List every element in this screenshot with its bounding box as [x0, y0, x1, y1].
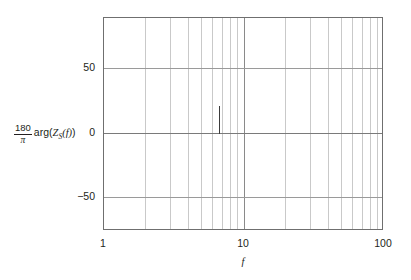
x-tick-label-10: 10: [223, 238, 263, 249]
x-tick-label-1: 1: [83, 238, 123, 249]
y-tick-label-50: 50: [55, 62, 95, 73]
x-axis-label: f: [223, 256, 263, 267]
y-tick-label-minus-50: −50: [55, 191, 95, 202]
y-tick-label-0: 0: [55, 127, 95, 138]
fraction-denominator: π: [14, 135, 32, 146]
resonance-spike: [219, 106, 220, 134]
fraction-numerator: 180: [14, 123, 32, 135]
x-tick-label-100: 100: [363, 238, 403, 249]
data-series-arg-zs: [104, 18, 382, 229]
phase-response-figure: 180 π arg(ZS(f)) 50 0 −50: [0, 0, 411, 280]
plot-area: [103, 17, 383, 230]
fraction-180-over-pi: 180 π: [14, 123, 32, 146]
arg-prefix: arg(: [34, 126, 53, 138]
